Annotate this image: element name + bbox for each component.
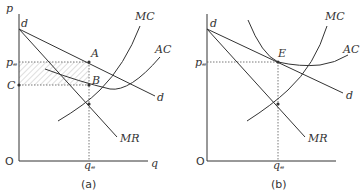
price-label: pₑ — [195, 56, 206, 69]
panel-a: p d pₑ C A B MC AC d MR O qₑ q (a) — [5, 2, 172, 191]
mr-label: MR — [307, 132, 328, 145]
mr-curve — [207, 29, 305, 137]
point-c — [17, 83, 20, 86]
y-axis-label: p — [6, 2, 13, 15]
mr-label: MR — [119, 132, 140, 145]
point-b-label: B — [91, 74, 100, 87]
x-axis-label: q — [151, 157, 158, 170]
ac-label: AC — [342, 43, 360, 56]
point-a — [87, 60, 90, 63]
quantity-label: qₑ — [273, 159, 284, 172]
panel-b: d pₑ E MC AC d MR O qₑ (b) — [195, 10, 360, 191]
ac-label: AC — [154, 43, 172, 56]
mc-mr-intersection — [276, 102, 279, 105]
ac-curve — [248, 20, 348, 66]
mc-curve — [247, 26, 327, 121]
point-b — [87, 83, 90, 86]
demand-label-end: d — [157, 91, 164, 104]
mc-mr-intersection — [87, 102, 90, 105]
panel-caption: (a) — [81, 178, 96, 191]
point-a-label: A — [90, 47, 99, 60]
origin-label: O — [5, 155, 14, 168]
demand-label-top: d — [21, 17, 28, 30]
point-e — [276, 60, 279, 63]
demand-label-end: d — [346, 89, 353, 102]
monopolistic-competition-diagram: p d pₑ C A B MC AC d MR O qₑ q (a) d pₑ … — [0, 0, 360, 196]
cost-label: C — [7, 79, 16, 92]
profit-area — [19, 62, 89, 85]
mc-label: MC — [324, 10, 345, 23]
origin-label: O — [196, 155, 205, 168]
demand-label-top: d — [210, 17, 217, 30]
mc-label: MC — [134, 10, 155, 23]
point-e-label: E — [277, 47, 286, 60]
quantity-label: qₑ — [84, 159, 95, 172]
price-label: pₑ — [6, 56, 17, 69]
panel-caption: (b) — [271, 178, 287, 191]
